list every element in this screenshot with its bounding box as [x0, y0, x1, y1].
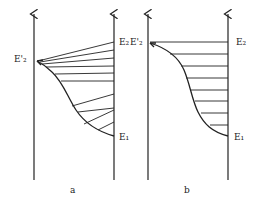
- caption-b: b: [184, 185, 190, 195]
- energy-level-diagram: [0, 0, 265, 209]
- label-e1-a: E₁: [119, 133, 129, 142]
- label-e2-b: E₂: [236, 38, 246, 47]
- panel-b: [148, 14, 228, 180]
- label-e2-a: E₂: [119, 38, 129, 47]
- transition-lines-a: [38, 42, 114, 130]
- panel-a: [34, 14, 114, 180]
- label-e2-prime-b: E'₂: [130, 38, 143, 47]
- curve-b: [150, 43, 228, 136]
- label-e2-prime-a: E'₂: [14, 55, 27, 64]
- label-e1-b: E₁: [234, 133, 244, 142]
- caption-a: a: [70, 185, 75, 195]
- curve-a: [37, 61, 114, 136]
